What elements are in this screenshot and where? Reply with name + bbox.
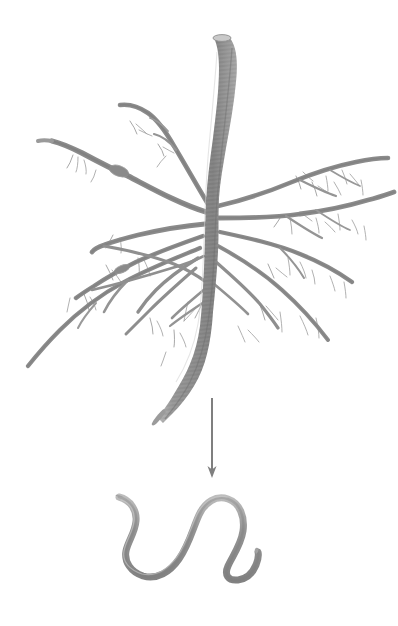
root-nematode-diagram — [0, 0, 398, 626]
figure-container: Plant root system with nematode — [0, 0, 398, 626]
tap-root-cut-end — [213, 35, 231, 42]
